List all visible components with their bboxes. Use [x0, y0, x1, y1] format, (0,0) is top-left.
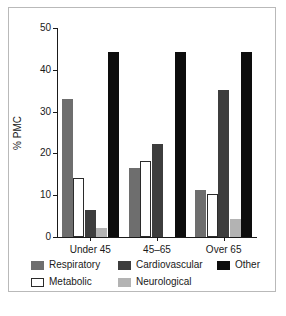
bar-metabolic — [207, 194, 218, 237]
bar-other — [175, 52, 186, 237]
chart-legend: Respiratory Cardiovascular Other Metabol… — [31, 258, 271, 289]
y-tick-label: 30 — [40, 107, 51, 117]
x-tick-mark — [224, 237, 225, 241]
legend-swatch-cardiovascular-icon — [118, 261, 131, 270]
legend-swatch-respiratory-icon — [31, 261, 44, 270]
bar-respiratory — [62, 99, 73, 237]
y-tick-mark — [53, 195, 57, 196]
legend-row-bottom: Metabolic Neurological — [31, 275, 271, 289]
legend-label: Metabolic — [49, 277, 92, 287]
bar-group — [195, 28, 252, 237]
x-tick-mark — [90, 237, 91, 241]
legend-swatch-metabolic-icon — [31, 278, 44, 287]
bar-cardiovascular — [85, 210, 96, 237]
y-tick-label: 50 — [40, 23, 51, 33]
legend-label: Other — [235, 260, 260, 270]
bar-metabolic — [73, 178, 84, 237]
y-tick-mark — [53, 112, 57, 113]
y-tick-label: 10 — [40, 190, 51, 200]
bar-other — [241, 52, 252, 237]
bar-group — [129, 28, 186, 237]
y-tick-mark — [53, 237, 57, 238]
legend-item-neurological[interactable]: Neurological — [118, 275, 192, 289]
y-tick-label: 40 — [40, 65, 51, 75]
x-tick-label: Under 45 — [70, 244, 111, 255]
legend-item-other[interactable]: Other — [217, 258, 260, 272]
bar-cardiovascular — [218, 90, 229, 237]
bar-group — [62, 28, 119, 237]
y-tick-label: 0 — [45, 232, 51, 242]
bar-other — [108, 52, 119, 237]
legend-label: Neurological — [136, 277, 192, 287]
y-axis-line — [57, 28, 58, 238]
y-tick-label: 20 — [40, 148, 51, 158]
bar-respiratory — [195, 190, 206, 237]
bar-cardiovascular — [152, 144, 163, 237]
y-tick-mark — [53, 153, 57, 154]
bar-neurological — [96, 228, 107, 237]
legend-row-top: Respiratory Cardiovascular Other — [31, 258, 271, 272]
x-tick-label: Over 65 — [206, 244, 242, 255]
legend-item-cardiovascular[interactable]: Cardiovascular — [118, 258, 203, 272]
legend-label: Respiratory — [49, 260, 100, 270]
y-axis-label: % PMC — [12, 116, 23, 150]
legend-item-respiratory[interactable]: Respiratory — [31, 258, 100, 272]
figure-frame: 0 10 20 30 40 50 % PMC Under 4545–65Over… — [8, 7, 276, 292]
x-tick-label: 45–65 — [143, 244, 171, 255]
x-tick-mark — [157, 237, 158, 241]
legend-swatch-neurological-icon — [118, 278, 131, 287]
legend-label: Cardiovascular — [136, 260, 203, 270]
y-tick-mark — [53, 70, 57, 71]
bar-respiratory — [129, 168, 140, 237]
y-tick-mark — [53, 28, 57, 29]
bar-neurological — [230, 219, 241, 237]
legend-item-metabolic[interactable]: Metabolic — [31, 275, 92, 289]
bar-metabolic — [140, 161, 151, 237]
legend-swatch-other-icon — [217, 261, 230, 270]
plot-area: 0 10 20 30 40 50 % PMC Under 4545–65Over… — [57, 28, 257, 238]
